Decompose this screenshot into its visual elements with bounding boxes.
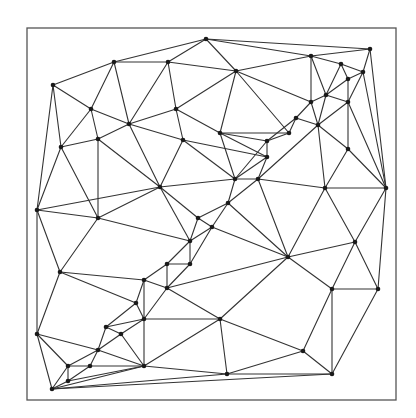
- vertex-point: [346, 77, 351, 82]
- triangulation-diagram: [0, 0, 416, 418]
- vertex-point: [361, 70, 366, 75]
- vertex-point: [287, 131, 292, 136]
- triangulation-edge: [160, 140, 183, 187]
- triangulation-edge: [348, 102, 386, 188]
- vertex-point: [301, 349, 306, 354]
- triangulation-edge: [288, 188, 325, 257]
- triangulation-edge: [258, 179, 325, 188]
- triangulation-edge: [60, 272, 136, 303]
- triangulation-edge: [296, 102, 311, 118]
- triangulation-edge: [332, 289, 378, 374]
- vertex-point: [35, 208, 40, 213]
- triangulation-edge: [325, 188, 355, 242]
- triangulation-edge: [136, 303, 144, 319]
- triangulation-edge: [167, 288, 220, 319]
- vertex-point: [346, 147, 351, 152]
- triangulation-edge: [325, 149, 348, 188]
- triangulation-edge: [168, 39, 206, 62]
- vertex-point: [188, 262, 193, 267]
- triangulation-edge: [228, 179, 258, 203]
- vertex-point: [142, 278, 147, 283]
- triangulation-edge: [121, 334, 144, 366]
- vertex-point: [58, 270, 63, 275]
- triangulation-edge: [296, 118, 318, 125]
- triangulation-edge: [144, 288, 167, 319]
- vertex-point: [59, 145, 64, 150]
- triangulation-edge: [311, 95, 326, 102]
- triangulation-edge: [37, 210, 60, 272]
- vertex-point: [225, 372, 230, 377]
- vertex-point: [142, 317, 147, 322]
- triangulation-edge: [144, 264, 167, 280]
- vertex-point: [218, 131, 223, 136]
- triangulation-edge: [129, 124, 183, 140]
- vertex-point: [165, 262, 170, 267]
- triangulation-edge: [37, 85, 53, 210]
- vertex-point: [204, 37, 209, 42]
- triangulation-edge: [91, 109, 98, 139]
- triangulation-edge: [61, 147, 98, 218]
- vertex-point: [339, 62, 344, 67]
- vertex-point: [256, 177, 261, 182]
- triangulation-edge: [311, 56, 341, 64]
- triangulation-edge: [160, 179, 235, 187]
- triangulation-edge: [37, 210, 98, 218]
- vertex-point: [165, 286, 170, 291]
- triangulation-edge: [212, 227, 288, 257]
- vertex-point: [265, 139, 270, 144]
- triangulation-edge: [228, 179, 235, 203]
- vertex-point: [323, 186, 328, 191]
- triangulation-edge: [190, 227, 212, 241]
- triangulation-edge: [190, 218, 198, 241]
- triangulation-edge: [37, 272, 60, 334]
- vertex-point: [89, 107, 94, 112]
- triangulation-edge: [98, 350, 144, 366]
- triangulation-edge: [227, 351, 303, 374]
- triangulation-edge: [267, 118, 296, 141]
- triangulation-edge: [318, 102, 348, 125]
- vertex-point: [265, 155, 270, 160]
- triangulation-edge: [176, 71, 236, 109]
- triangulation-edge: [288, 242, 355, 257]
- vertex-point: [316, 123, 321, 128]
- triangulation-edge: [144, 319, 220, 366]
- vertex-point: [226, 201, 231, 206]
- vertex-point: [127, 122, 132, 127]
- triangulation-edge: [98, 124, 129, 139]
- triangulation-edge: [236, 71, 289, 133]
- triangulation-edge: [258, 179, 288, 257]
- vertex-point: [96, 216, 101, 221]
- triangulation-edge: [332, 242, 355, 289]
- triangulation-edge: [106, 327, 121, 334]
- triangulation-edge: [114, 62, 129, 124]
- triangulation-edge: [348, 72, 363, 102]
- vertex-point: [51, 83, 56, 88]
- vertex-point: [66, 379, 71, 384]
- triangulation-edge: [355, 242, 378, 289]
- triangulation-edge: [37, 334, 98, 350]
- triangulation-edge: [220, 319, 303, 351]
- triangulation-edge: [160, 187, 198, 218]
- vertex-point: [166, 60, 171, 65]
- triangulation-edge: [303, 351, 332, 374]
- triangulation-edge: [311, 102, 318, 125]
- vertex-point: [286, 255, 291, 260]
- vertex-point: [50, 387, 55, 392]
- triangulation-edge: [167, 264, 190, 288]
- vertex-point: [330, 287, 335, 292]
- triangulation-edge: [98, 139, 160, 187]
- vertex-point: [174, 107, 179, 112]
- triangulation-edge: [176, 109, 220, 133]
- vertex-point: [376, 287, 381, 292]
- vertex-point: [346, 100, 351, 105]
- vertex-point: [112, 60, 117, 65]
- vertex-point: [196, 216, 201, 221]
- vertex-point: [142, 364, 147, 369]
- vertex-point: [234, 69, 239, 74]
- vertex-point: [330, 372, 335, 377]
- edge-group: [37, 39, 386, 389]
- triangulation-edge: [53, 85, 61, 147]
- triangulation-edge: [198, 218, 212, 227]
- triangulation-edge: [98, 334, 121, 350]
- triangulation-edge: [206, 39, 236, 71]
